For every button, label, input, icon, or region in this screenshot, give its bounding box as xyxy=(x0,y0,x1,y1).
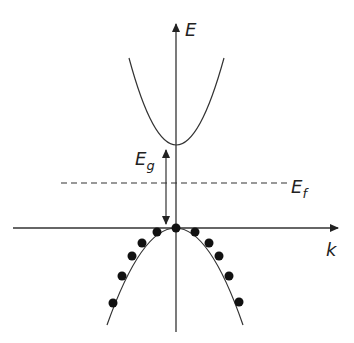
band-diagram: E k Ef Eg xyxy=(0,0,354,343)
electron-dot xyxy=(128,252,137,261)
electron-dot xyxy=(153,228,162,237)
energy-axis-label: E xyxy=(185,19,197,40)
electron-dot xyxy=(172,224,181,233)
electron-dot xyxy=(205,239,214,248)
band-gap-label: Eg xyxy=(135,148,155,173)
momentum-axis-label: k xyxy=(326,239,338,260)
fermi-level-label: Ef xyxy=(291,176,309,201)
electron-dot xyxy=(109,299,118,308)
electron-dot xyxy=(191,228,200,237)
electron-dot xyxy=(225,272,234,281)
valence-band-curve xyxy=(107,228,243,325)
electron-dot xyxy=(235,298,244,307)
electron-dot xyxy=(138,239,147,248)
electron-dot xyxy=(215,252,224,261)
electron-dot xyxy=(118,272,127,281)
